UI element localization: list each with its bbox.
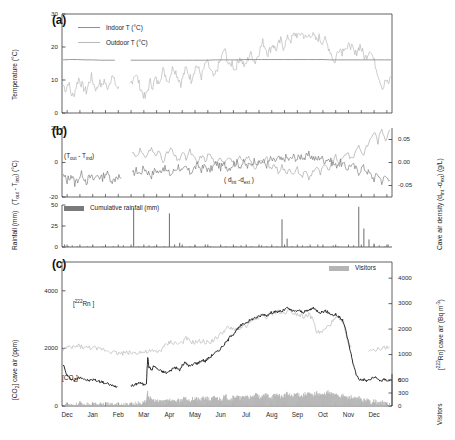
legend-visitors-label: Visitors — [355, 264, 376, 271]
axis-tick-label: -0.05 — [398, 182, 424, 188]
axis-tick-label: 0 — [32, 159, 58, 165]
axis-tick-label: 300 — [398, 390, 426, 396]
axis-tick-label: 4000 — [398, 275, 426, 281]
annotation-co2: [CO2] — [62, 374, 78, 383]
axis-tick-label: 0 — [32, 110, 58, 116]
axis-tick-label: 3000 — [398, 300, 426, 306]
x-axis-tick-label: Dec — [358, 412, 390, 418]
axis-tick-label: 10 — [32, 77, 58, 83]
axis-tick-label: 25 — [32, 223, 58, 229]
annotation-radon: [222Rn ] — [73, 299, 94, 307]
axis-tick-label: 20 — [32, 44, 58, 50]
axis-tick-label: 30 — [32, 11, 58, 17]
axis-tick-label: 20 — [32, 125, 58, 131]
axis-tick-label: -20 — [32, 194, 58, 200]
axis-tick-label: 600 — [398, 377, 426, 383]
axis-tick-label: 0 — [398, 403, 426, 409]
axis-tick-label: 2000 — [30, 345, 58, 351]
figure-root: (a) Temperature (°C) Indoor T (°C) Outdo… — [0, 0, 455, 440]
axis-tick-label: 4000 — [30, 288, 58, 294]
axis-tick-label: 1000 — [398, 351, 426, 357]
axis-tick-label: 0.05 — [398, 136, 424, 142]
axis-tick-label: 0 — [30, 403, 58, 409]
axis-tick-label: 50 — [32, 202, 58, 208]
axis-tick-label: 0.00 — [398, 159, 424, 165]
axis-tick-label: 0 — [32, 244, 58, 250]
axis-tick-label: 2000 — [398, 326, 426, 332]
legend-visitors-swatch — [329, 266, 349, 271]
